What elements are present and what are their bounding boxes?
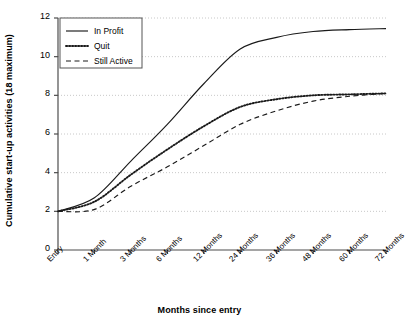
y-tick-label: 8: [24, 89, 50, 98]
y-tick-label: 10: [24, 51, 50, 60]
x-axis-title: Months since entry: [0, 305, 399, 315]
y-tick-label: 4: [24, 167, 50, 176]
legend-label-quit: Quit: [94, 41, 110, 51]
y-tick-label: 2: [24, 205, 50, 214]
series-line-quit: [58, 93, 386, 211]
y-tick-label: 12: [24, 12, 50, 21]
y-tick-label: 0: [24, 244, 50, 253]
legend-label-still-active: Still Active: [94, 56, 133, 66]
y-tick-label: 6: [24, 128, 50, 137]
legend-label-in-profit: In Profit: [94, 26, 124, 36]
